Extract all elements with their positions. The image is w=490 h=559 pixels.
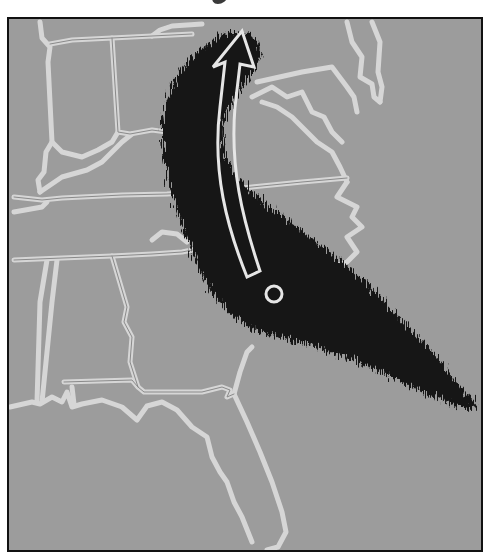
- map-frame: [7, 17, 483, 552]
- title-remnant: [0, 0, 490, 16]
- cropped-title-glyph: [210, 0, 230, 4]
- southeast-us-map: [9, 19, 481, 550]
